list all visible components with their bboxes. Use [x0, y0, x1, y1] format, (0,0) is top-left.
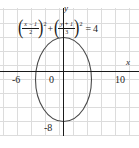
ellipse-equation: ( x − 1 2 ) 2 + ( y + 1 3 ) 2 = 4	[18, 20, 98, 36]
equation-fraction-2: y + 1 3	[59, 21, 74, 36]
fraction-1-numerator: x − 1	[23, 21, 38, 28]
origin-label: 0	[49, 75, 54, 85]
fraction-2-numerator: y + 1	[59, 21, 74, 28]
equation-open-paren-1: (	[18, 18, 23, 38]
x-axis-label: x	[126, 58, 130, 67]
equation-plus-operator: +	[47, 23, 53, 34]
equation-right-hand-side: 4	[93, 23, 98, 34]
fraction-1-denominator: 2	[22, 28, 39, 36]
y-tick-label-neg8: -8	[44, 123, 52, 133]
x-tick-label-10: 10	[115, 75, 125, 85]
equation-fraction-1: x − 1 2	[23, 21, 38, 36]
y-axis-label: y	[64, 4, 68, 13]
ellipse-graph-figure: x y -6 0 10 -8 ( x − 1 2 ) 2 + ( y + 1 3…	[0, 0, 139, 148]
equation-equals-sign: =	[85, 23, 91, 34]
equation-open-paren-2: (	[54, 18, 59, 38]
fraction-2-denominator: 3	[58, 28, 75, 36]
x-tick-label-neg6: -6	[12, 75, 20, 85]
equation-exponent-1: 2	[43, 21, 46, 27]
equation-exponent-2: 2	[79, 21, 82, 27]
